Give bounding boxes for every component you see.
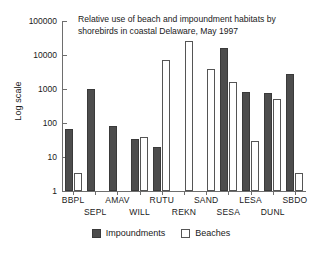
y-tick-label: 100 — [0, 119, 57, 128]
y-axis-label: Log scale — [13, 61, 23, 141]
bar-impoundments — [220, 48, 228, 191]
bar-beaches — [273, 99, 281, 191]
legend-label-beaches: Beaches — [195, 228, 230, 238]
bar-beaches — [207, 69, 215, 191]
y-tick-mark — [62, 191, 67, 192]
y-tick-label: 1 — [0, 187, 57, 196]
legend-swatch-beaches-icon — [181, 229, 190, 238]
bar-impoundments — [131, 139, 139, 191]
chart-legend: Impoundments Beaches — [0, 228, 322, 238]
x-tick-mark — [228, 191, 229, 195]
x-tick-label-amav: AMAV — [105, 196, 129, 205]
y-tick-label: 10 — [0, 153, 57, 162]
x-tick-label-rutu: RUTU — [150, 196, 174, 205]
bar-beaches — [251, 141, 259, 191]
y-tick-label: 1000 — [0, 85, 57, 94]
bar-impoundments — [65, 129, 73, 191]
legend-item-impoundments: Impoundments — [92, 228, 166, 238]
x-tick-label-sbdo: SBDO — [282, 196, 307, 205]
legend-item-beaches: Beaches — [181, 228, 230, 238]
y-tick-mark — [62, 21, 67, 22]
bar-beaches — [162, 60, 170, 191]
bar-impoundments — [286, 74, 294, 191]
y-tick-mark — [62, 89, 67, 90]
y-tick-label: 100000 — [0, 17, 57, 26]
bar-impoundments — [264, 93, 272, 191]
x-tick-label-sesa: SESA — [217, 208, 240, 217]
x-tick-label-dunl: DUNL — [261, 208, 285, 217]
bar-impoundments — [109, 126, 117, 191]
bar-beaches — [185, 41, 193, 191]
bar-beaches — [140, 137, 148, 191]
x-tick-mark — [273, 191, 274, 195]
x-tick-mark — [140, 191, 141, 195]
x-tick-label-sepl: SEPL — [84, 208, 107, 217]
bar-impoundments — [242, 92, 250, 191]
bar-impoundments — [153, 147, 161, 191]
bar-beaches — [74, 173, 82, 191]
x-tick-label-rekn: REKN — [172, 208, 196, 217]
x-tick-label-will: WILL — [129, 208, 150, 217]
y-tick-mark — [62, 55, 67, 56]
legend-label-impoundments: Impoundments — [106, 228, 166, 238]
y-tick-label: 10000 — [0, 51, 57, 60]
y-tick-mark — [62, 123, 67, 124]
chart-container: Relative use of beach and impoundment ha… — [0, 0, 322, 255]
bar-beaches — [295, 173, 303, 191]
x-tick-label-bbpl: BBPL — [62, 196, 85, 205]
legend-swatch-impoundments-icon — [92, 229, 101, 238]
x-tick-mark — [184, 191, 185, 195]
x-tick-label-sand: SAND — [194, 196, 218, 205]
x-tick-label-lesa: LESA — [239, 196, 262, 205]
x-tick-mark — [95, 191, 96, 195]
bar-impoundments — [87, 89, 95, 191]
bar-beaches — [229, 82, 237, 191]
